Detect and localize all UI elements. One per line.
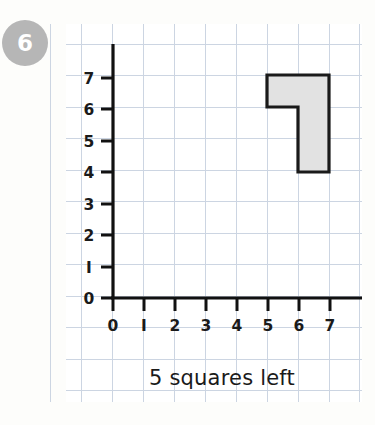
y-tick-label-5: 5 [84, 133, 95, 151]
chart-caption: 5 squares left [149, 366, 295, 390]
y-axis-tick-labels: 7 6 5 4 3 2 I 0 [84, 70, 95, 308]
y-tick-label-4: 4 [84, 164, 95, 182]
x-axis-ticks [113, 298, 330, 311]
plotted-l-shape [267, 75, 329, 172]
x-tick-label-2: 2 [170, 317, 181, 335]
y-tick-label-3: 3 [84, 196, 95, 214]
x-tick-label-3: 3 [201, 317, 212, 335]
coordinate-grid-chart: 7 6 5 4 3 2 I 0 0 I 2 3 4 5 6 7 5 square… [0, 0, 375, 425]
x-tick-label-1: I [141, 317, 147, 335]
x-tick-label-4: 4 [232, 317, 243, 335]
y-tick-label-6: 6 [84, 101, 95, 119]
y-tick-label-0: 0 [84, 290, 95, 308]
x-axis-tick-labels: 0 I 2 3 4 5 6 7 [108, 317, 336, 335]
x-tick-label-5: 5 [263, 317, 274, 335]
x-tick-label-7: 7 [325, 317, 336, 335]
y-tick-label-1: I [86, 259, 92, 277]
x-tick-label-6: 6 [294, 317, 305, 335]
x-tick-label-0: 0 [108, 317, 119, 335]
y-tick-label-2: 2 [84, 227, 95, 245]
y-tick-label-7: 7 [84, 70, 95, 88]
worksheet-page: 6 [0, 0, 375, 425]
